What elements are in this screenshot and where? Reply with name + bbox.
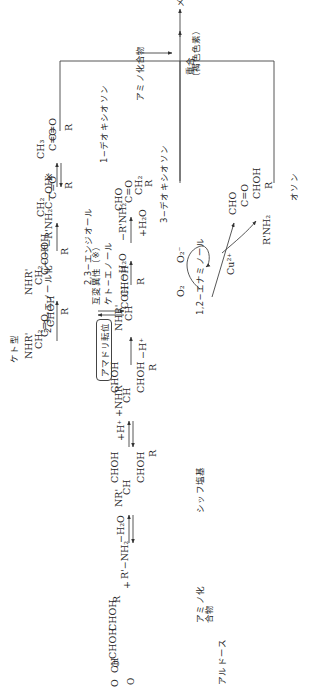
deoxyosone1-label: 1−デオキシオソン — [100, 85, 109, 163]
osone-r: R — [264, 182, 274, 189]
aldose-ch: CH — [110, 657, 120, 673]
schiff-choh2: CHOH — [136, 451, 146, 483]
amine-label: アミノ化合物 — [196, 583, 213, 623]
melanoidin-sublabel-wrap: （褐色色素） — [192, 25, 201, 81]
deoxyosone1-r: R — [64, 124, 74, 131]
aldose-label: アルドース — [218, 639, 227, 686]
enediol-r: R — [60, 248, 70, 255]
iminium-choh2: CHOH — [136, 361, 146, 393]
aldose-r: R — [112, 596, 122, 603]
o2-label: O₂ — [176, 285, 186, 297]
schiff-choh1: CHOH — [110, 451, 120, 483]
deoxyosone3-r: R — [144, 180, 154, 187]
superoxide-label: O₂⁻ — [176, 246, 186, 263]
deoxyosone1-ch3: CH₃ — [36, 140, 46, 159]
iminium-r: R — [148, 364, 158, 371]
schiff-r: R — [148, 450, 158, 457]
protonation-label: +H⁺ — [116, 420, 126, 441]
aldose-choh1: CHOH — [108, 627, 118, 659]
enaminol-label: 1,2−エナミノール — [196, 237, 205, 315]
schiff-label: シッフ塩基 — [196, 467, 205, 514]
osone-choh: CHOH — [252, 167, 262, 199]
amadori-box: アマドリ転位 — [96, 319, 112, 381]
enaminol-r: R — [136, 278, 146, 285]
deprotonation-label: −H⁺ — [138, 338, 148, 359]
keto-r: R — [60, 308, 70, 315]
osone-label: オソン — [290, 173, 299, 201]
amino-input-label: アミノ化合物 — [136, 45, 145, 101]
iminium-ch: CH — [122, 387, 132, 403]
schiff-ch: CH — [122, 479, 132, 495]
copper-label: Cu²⁺ — [226, 253, 236, 275]
plus-sign: + — [122, 581, 132, 589]
osone-cho: CHO — [228, 192, 238, 215]
amine-formula: R'−NH₂ — [120, 541, 130, 579]
star-label: ※ — [44, 173, 54, 181]
reaction-arrows — [0, 0, 325, 693]
amine-release-label: R'NH₂ — [262, 215, 272, 245]
water-add-label: +H₂O — [138, 209, 148, 237]
tautomer-label: 互変異性（※） — [92, 242, 101, 305]
h2o-loss-label: −H₂O — [116, 515, 126, 543]
keto-enol-label: ケト−エノール — [104, 242, 113, 305]
methylenol-r: R — [64, 182, 74, 189]
deoxyosone3-label: 3−デオキシオソン — [160, 145, 169, 223]
deoxyosone1-co2: C=O — [48, 118, 58, 141]
aldose-choh2: CHOH — [108, 599, 118, 631]
osone-co: C=O — [240, 184, 250, 207]
melanoidin-label: メラノイジン — [175, 0, 185, 7]
keto-label: ケト型 — [10, 335, 19, 363]
maillard-reaction-diagram: O O O CH CHOH CHOH R アルドース + R'−NH₂ アミノ化… — [0, 0, 325, 693]
aldose-o: O — [110, 679, 120, 687]
enediol-label: 2,3−エンジオール — [84, 207, 93, 285]
melanoidin-label-wrap: メラノイジン — [176, 31, 185, 87]
dehydration-label: −H₂O — [118, 253, 128, 281]
melanoidin-sublabel: （褐色色素） — [191, 25, 201, 81]
